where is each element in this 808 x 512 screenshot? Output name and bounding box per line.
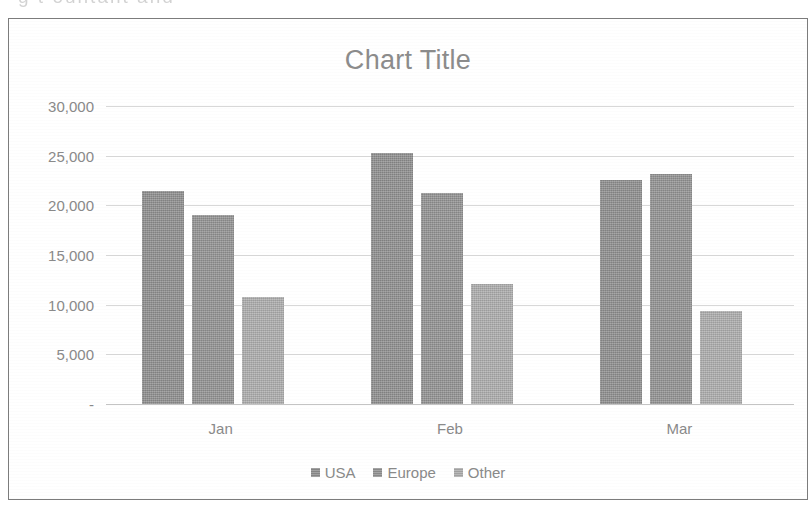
bar-europe-mar[interactable] [650, 174, 692, 404]
bar-europe-feb[interactable] [421, 193, 463, 404]
bar-usa-feb[interactable] [371, 153, 413, 404]
chart-title[interactable]: Chart Title [9, 45, 807, 76]
legend-label: Other [468, 464, 506, 481]
x-axis-tick-label: Feb [437, 420, 463, 437]
legend-item-usa[interactable]: USA [311, 464, 356, 481]
page-scan-artifact: g t ountant and [0, 0, 795, 14]
gridline [106, 404, 794, 405]
plot-area[interactable]: -5,00010,00015,00020,00025,00030,000 Jan… [106, 106, 794, 404]
y-axis-tick-label: 5,000 [56, 346, 94, 363]
legend-item-europe[interactable]: Europe [373, 464, 435, 481]
legend-label: USA [325, 464, 356, 481]
chart-legend[interactable]: USAEuropeOther [9, 464, 807, 481]
x-axis-tick-label: Mar [666, 420, 692, 437]
x-axis-tick-label: Jan [209, 420, 233, 437]
y-axis-tick-label: 30,000 [48, 98, 94, 115]
bar-other-mar[interactable] [700, 311, 742, 404]
y-axis-tick-label: 15,000 [48, 247, 94, 264]
bar-europe-jan[interactable] [192, 215, 234, 404]
bar-other-feb[interactable] [471, 284, 513, 404]
y-axis-tick-label: 10,000 [48, 296, 94, 313]
legend-swatch-icon [373, 468, 382, 477]
y-axis-tick-label: 20,000 [48, 197, 94, 214]
cut-off-text-line: g t ountant and [18, 0, 175, 8]
legend-label: Europe [387, 464, 435, 481]
bars[interactable] [106, 106, 794, 404]
y-axis-tick-label: - [89, 396, 94, 413]
chart-object-frame[interactable]: Chart Title -5,00010,00015,00020,00025,0… [8, 18, 808, 500]
legend-swatch-icon [311, 468, 320, 477]
bar-other-jan[interactable] [242, 297, 284, 404]
legend-item-other[interactable]: Other [454, 464, 506, 481]
legend-swatch-icon [454, 468, 463, 477]
y-axis-tick-label: 25,000 [48, 147, 94, 164]
bar-usa-jan[interactable] [142, 191, 184, 404]
bar-usa-mar[interactable] [600, 180, 642, 404]
